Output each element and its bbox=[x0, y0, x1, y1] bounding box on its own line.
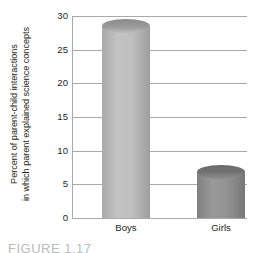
x-tick-label: Girls bbox=[197, 222, 245, 234]
y-axis-title: Percent of parent-child interactions in … bbox=[0, 0, 40, 228]
y-axis-tick-labels: 302520151050 bbox=[40, 16, 68, 218]
y-axis-title-line-1: Percent of parent-child interactions bbox=[9, 44, 20, 184]
y-tick-label: 0 bbox=[44, 213, 68, 223]
gridline bbox=[72, 117, 247, 118]
figure-container: Percent of parent-child interactions in … bbox=[0, 0, 256, 253]
gridline bbox=[72, 151, 247, 152]
bar-girls bbox=[197, 172, 245, 218]
bar-boys bbox=[102, 26, 150, 218]
y-tick-label: 20 bbox=[44, 78, 68, 88]
y-tick-label: 30 bbox=[44, 11, 68, 21]
y-tick-label: 10 bbox=[44, 146, 68, 156]
y-axis-title-rotated: Percent of parent-child interactions in … bbox=[0, 0, 40, 228]
y-tick-label: 15 bbox=[44, 112, 68, 122]
x-tick-label: Boys bbox=[102, 222, 150, 234]
y-tick-label: 5 bbox=[44, 179, 68, 189]
y-tick-label: 25 bbox=[44, 45, 68, 55]
figure-caption: FIGURE 1.17 bbox=[8, 241, 92, 253]
axis-baseline bbox=[72, 218, 247, 219]
gridline bbox=[72, 50, 247, 51]
y-axis-title-line-2: in which parent explained science concep… bbox=[21, 27, 32, 201]
x-axis-tick-labels: BoysGirls bbox=[72, 222, 247, 238]
gridline bbox=[72, 16, 247, 17]
bar-body bbox=[197, 172, 245, 218]
gridline bbox=[72, 83, 247, 84]
plot-area bbox=[72, 16, 247, 218]
bar-body bbox=[102, 26, 150, 218]
